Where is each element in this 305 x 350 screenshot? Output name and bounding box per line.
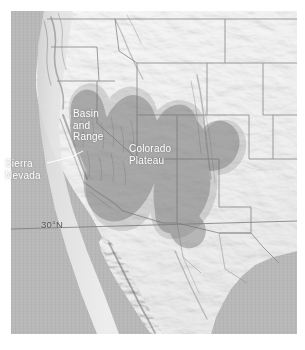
map-frame bbox=[11, 11, 297, 334]
map-figure: Basin and Range Colorado Plateau Sierra … bbox=[0, 0, 305, 350]
leader-line-layer bbox=[11, 11, 297, 334]
sierra-nevada-leader-line bbox=[47, 151, 83, 163]
